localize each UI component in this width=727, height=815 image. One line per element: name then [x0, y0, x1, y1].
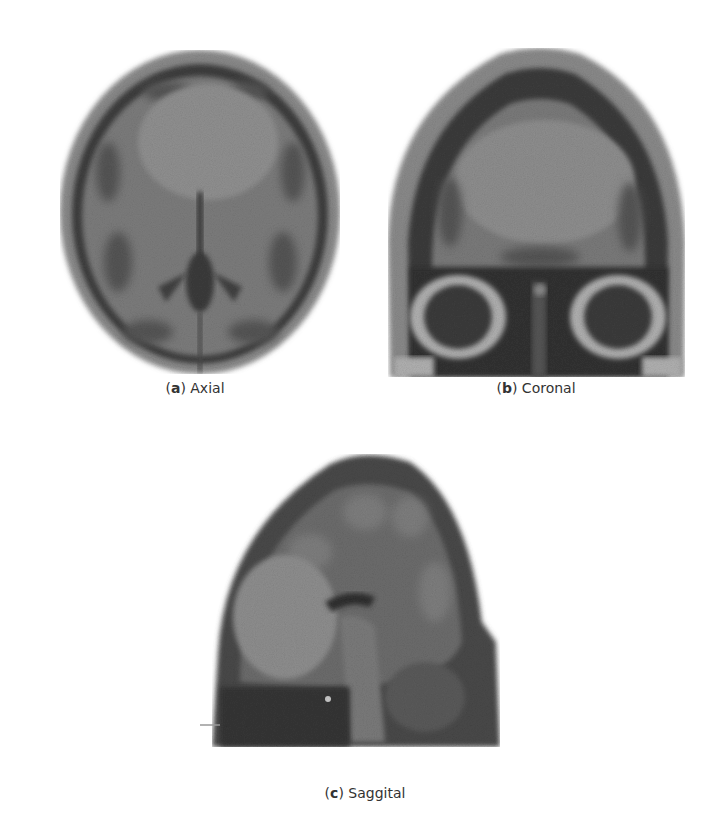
axial-mri-image: [58, 42, 342, 374]
coronal-caption: (b) Coronal: [476, 380, 596, 396]
sagittal-mri-image: [200, 442, 510, 754]
sagittal-caption-letter: c: [330, 785, 338, 801]
sagittal-caption: (c) Saggital: [305, 785, 425, 801]
coronal-brain-scan-graphic: [380, 42, 692, 380]
axial-caption-label: Axial: [190, 380, 224, 396]
sagittal-brain-scan-graphic: [200, 442, 510, 754]
coronal-caption-letter: b: [502, 380, 512, 396]
sagittal-caption-label: Saggital: [348, 785, 405, 801]
axial-brain-scan-graphic: [58, 42, 342, 374]
coronal-mri-image: [380, 42, 692, 380]
coronal-caption-label: Coronal: [522, 380, 576, 396]
axial-caption: (a) Axial: [145, 380, 245, 396]
axial-caption-letter: a: [171, 380, 180, 396]
